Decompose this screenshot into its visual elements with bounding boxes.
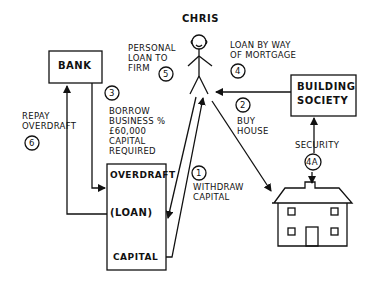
edge-4-text: LOAN BY WAY OF MORTGAGE	[230, 40, 296, 60]
edge-4a-text: SECURITY	[295, 140, 339, 150]
edge-4-number: 4	[235, 66, 241, 76]
edge-1-number: 1	[196, 168, 202, 178]
bank-label: BANK	[58, 61, 91, 71]
person-label: CHRIS	[182, 14, 219, 24]
business-row-loan: (LOAN)	[110, 208, 153, 218]
edge-3-number: 3	[109, 88, 115, 98]
edge-2-text: BUY HOUSE	[237, 116, 269, 136]
edge-3-text: BORROW BUSINESS % £60,000 CAPITAL REQUIR…	[109, 106, 165, 156]
building-society-label: BUILDING SOCIETY	[297, 80, 355, 108]
business-row-capital: CAPITAL	[113, 252, 158, 262]
edge-6-text: REPAY OVERDRAFT	[22, 111, 76, 131]
business-row-overdraft: OVERDRAFT	[110, 170, 176, 180]
edge-4a-number: 4A	[306, 157, 318, 167]
edge-5-number: 5	[163, 69, 169, 79]
edge-2-number: 2	[240, 100, 246, 110]
edge-1-text: WITHDRAW CAPITAL	[193, 182, 244, 202]
edge-6-number: 6	[29, 138, 35, 148]
